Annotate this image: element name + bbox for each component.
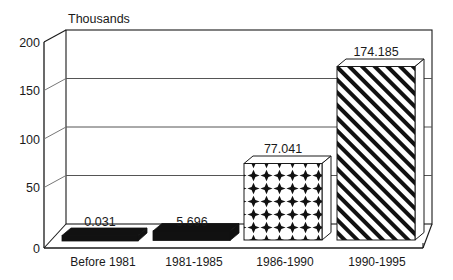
x-tick-label-before-1981: Before 1981 (70, 255, 136, 269)
bar-1986-1990 (244, 156, 331, 240)
x-tick-label-1981-1985: 1981-1985 (165, 255, 223, 269)
y-tick-label-50: 50 (26, 181, 40, 195)
bar-value-label-1990-1995: 174.185 (353, 45, 398, 59)
x-tick-label-1986-1990: 1986-1990 (256, 255, 314, 269)
chart-canvas: Thousands 200 150 100 50 0 0.031 5.696 7… (0, 0, 453, 280)
x-tick-label-1990-1995: 1990-1995 (348, 255, 406, 269)
bar-chart: Thousands 200 150 100 50 0 0.031 5.696 7… (0, 0, 453, 280)
left-wall-depth (44, 30, 66, 248)
y-tick-label-100: 100 (19, 133, 40, 147)
y-tick-label-200: 200 (19, 36, 40, 50)
bar-before-1981 (62, 228, 147, 241)
bar-value-label-1986-1990: 77.041 (264, 142, 302, 156)
bar-value-label-before-1981: 0.031 (84, 215, 115, 229)
chart-title: Thousands (68, 12, 130, 26)
bar-value-label-1981-1985: 5.696 (176, 215, 207, 229)
y-tick-label-0: 0 (33, 242, 40, 256)
bar-1990-1995 (337, 59, 424, 240)
y-tick-label-150: 150 (19, 84, 40, 98)
